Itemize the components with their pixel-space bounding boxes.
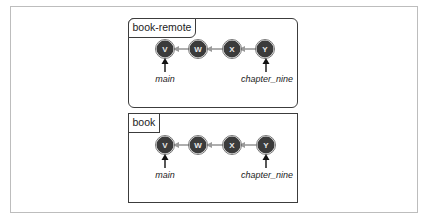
parent-edge-x-w [206, 46, 223, 52]
branch-label-chapter-nine: chapter_nine [241, 74, 293, 84]
parent-edge-w-v [173, 46, 189, 52]
repo-book: book V W X Y main chapter_nine [128, 113, 298, 203]
branch-pointer-arrow [162, 154, 169, 168]
svg-text:Y: Y [262, 45, 268, 54]
commit-node: X [223, 136, 242, 155]
svg-text:Y: Y [263, 141, 269, 150]
branch-pointer-arrow [263, 154, 270, 168]
branch-pointer-arrow [263, 58, 270, 72]
commit-node: Y [257, 136, 276, 155]
svg-text:X: X [229, 141, 235, 150]
commit-graph: V W X Y [129, 19, 299, 109]
commit-node: Y [256, 40, 275, 59]
branch-label-chapter-nine: chapter_nine [241, 170, 293, 180]
branch-label-main: main [155, 170, 175, 180]
repo-book-remote: book-remote V W X Y main chapter_nine [128, 18, 298, 108]
commit-graph: V W X Y [129, 114, 299, 204]
svg-text:W: W [194, 141, 202, 150]
parent-edge-w-v [173, 142, 189, 148]
svg-text:V: V [162, 141, 168, 150]
branch-label-main: main [155, 74, 175, 84]
commit-node: W [189, 136, 208, 155]
svg-text:W: W [194, 45, 202, 54]
commit-node: V [156, 40, 175, 59]
svg-text:V: V [162, 45, 168, 54]
commit-node: X [223, 40, 242, 59]
parent-edge-x-w [206, 142, 223, 148]
branch-pointer-arrow [162, 58, 169, 72]
commit-node: V [156, 136, 175, 155]
commit-node: W [189, 40, 208, 59]
svg-text:X: X [229, 45, 235, 54]
